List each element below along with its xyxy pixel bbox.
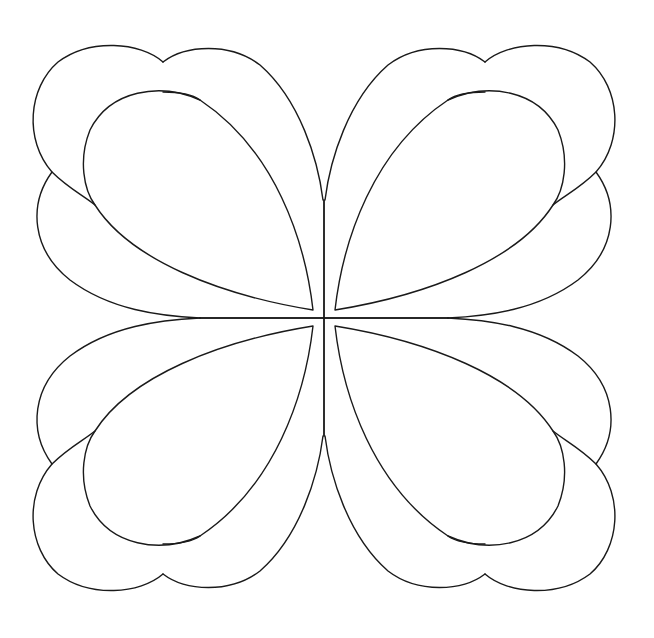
quadrant-bottom-left <box>33 318 324 591</box>
quadrant-top-left <box>33 45 324 318</box>
quilt-pattern-drawing <box>0 0 654 638</box>
quadrant-bottom-right <box>324 318 615 591</box>
quadrant-top-right <box>324 45 615 318</box>
